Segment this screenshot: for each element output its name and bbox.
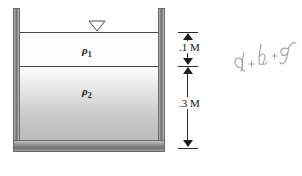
tank: ρ1 ρ2 xyxy=(13,8,165,152)
density-label-lower: ρ2 xyxy=(82,85,92,100)
arrowhead-down-icon-lower xyxy=(183,140,193,147)
arrowhead-up-icon-upper xyxy=(183,33,193,40)
density-subscript-upper: 1 xyxy=(88,50,92,59)
handwritten-annotation-strokes xyxy=(228,30,302,74)
free-surface-triangle-icon xyxy=(88,20,106,32)
arrowhead-down-icon-upper xyxy=(183,58,193,65)
arrowhead-up-icon-lower xyxy=(183,67,193,74)
handwritten-annotation xyxy=(228,30,302,74)
density-label-upper: ρ1 xyxy=(82,44,92,59)
dimension-label-upper-depth: .1 M xyxy=(178,41,201,53)
density-subscript-lower: 2 xyxy=(88,91,92,100)
dimension-label-lower-depth: .3 M xyxy=(178,97,201,109)
extension-tick-bottom xyxy=(178,148,198,149)
fluid-region-lower xyxy=(20,66,158,140)
fluid-tank-figure: ρ1 ρ2 .1 M .3 M xyxy=(0,0,302,176)
tank-wall-left xyxy=(13,8,20,152)
tank-interior: ρ1 ρ2 xyxy=(20,8,158,140)
tank-wall-right xyxy=(158,8,165,152)
free-surface-line xyxy=(20,32,158,33)
tank-wall-bottom xyxy=(13,140,165,152)
dimension-annotations: .1 M .3 M xyxy=(170,8,230,158)
fluid-interface-line xyxy=(20,66,158,67)
